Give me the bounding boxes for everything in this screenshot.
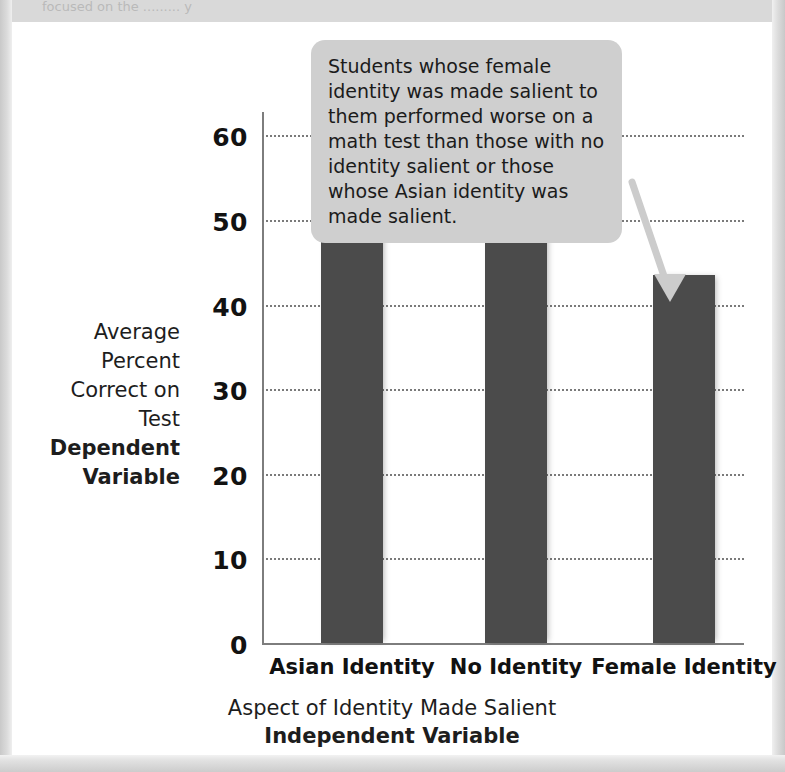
x-category-label-no-identity: No Identity — [450, 655, 582, 679]
y-axis-title-line-3: Correct on — [28, 376, 180, 405]
x-axis-line — [262, 643, 744, 645]
bar-chart: Average Percent Correct on Test Dependen… — [0, 0, 785, 772]
y-tick-label-10: 10 — [212, 546, 248, 575]
y-axis-title-dependent-word-1: Dependent — [50, 436, 180, 460]
y-axis-tick-labels: 0 10 20 30 40 50 60 — [186, 112, 248, 645]
bar-asian-identity — [321, 186, 383, 643]
bar-female-identity — [653, 275, 715, 643]
x-category-label-asian-identity: Asian Identity — [269, 655, 434, 679]
annotation-callout: Students whose female identity was made … — [311, 40, 622, 243]
y-tick-label-50: 50 — [212, 207, 248, 236]
x-axis-title-independent-variable: Independent Variable — [12, 722, 772, 750]
y-axis-title-line-2: Percent — [28, 347, 180, 376]
y-axis-title-dependent-word-2: Variable — [83, 465, 180, 489]
x-axis-title-main: Aspect of Identity Made Salient — [12, 694, 772, 722]
x-axis-category-labels: Asian Identity No Identity Female Identi… — [262, 655, 762, 689]
y-axis-title-dependent-variable: Dependent Variable — [28, 434, 180, 492]
y-axis-title-line-4: Test — [28, 405, 180, 434]
y-tick-label-60: 60 — [212, 123, 248, 152]
y-tick-label-40: 40 — [212, 292, 248, 321]
y-axis-title-line-1: Average — [28, 318, 180, 347]
y-axis-title: Average Percent Correct on Test Dependen… — [28, 318, 180, 492]
bar-no-identity — [485, 228, 547, 643]
x-category-label-female-identity: Female Identity — [591, 655, 777, 679]
y-tick-label-30: 30 — [212, 377, 248, 406]
x-axis-title: Aspect of Identity Made Salient Independ… — [12, 694, 772, 750]
y-axis-line — [262, 112, 264, 645]
y-tick-label-20: 20 — [212, 461, 248, 490]
y-tick-label-0: 0 — [230, 631, 248, 660]
